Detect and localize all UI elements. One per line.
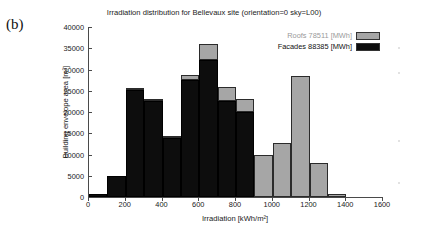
histogram-bar	[236, 99, 254, 197]
x-axis-tick-label: 1000	[264, 200, 280, 209]
bar-segment-roofs	[310, 163, 328, 197]
y-axis-tick-mark	[88, 91, 92, 92]
bar-segment-roofs	[254, 155, 272, 197]
x-axis-tick-label: 1200	[300, 200, 316, 209]
legend-label: Roofs 78511 [MWh]	[287, 31, 352, 40]
x-axis-tick-mark	[125, 197, 126, 201]
scan-speck	[398, 47, 400, 49]
bar-segment-roofs	[291, 76, 309, 197]
histogram-bar	[273, 143, 291, 197]
x-axis-tick-label: 400	[155, 200, 167, 209]
histogram-bar	[310, 163, 328, 197]
histogram-bar	[291, 76, 309, 197]
x-axis-tick-mark	[345, 197, 346, 201]
bar-segment-roofs	[328, 194, 346, 197]
x-axis-tick-mark	[382, 197, 383, 201]
y-axis-tick-label: 5000	[68, 171, 84, 180]
histogram-bar	[181, 75, 199, 197]
bar-segment-roofs	[218, 87, 236, 102]
histogram-bar	[218, 87, 236, 198]
histogram-bar	[107, 176, 125, 197]
x-axis-title: Irradiation [kWh/m²]	[88, 214, 382, 223]
bar-segment-roofs	[163, 136, 181, 138]
bar-segment-facades	[163, 138, 181, 198]
bar-segment-roofs	[273, 143, 291, 197]
legend-label: Facades 88385 [MWh]	[278, 42, 352, 51]
bar-segment-facades	[236, 112, 254, 197]
y-axis-tick-mark	[88, 133, 92, 134]
y-axis-tick-mark	[88, 112, 92, 113]
x-axis-tick-label: 1400	[337, 200, 353, 209]
histogram-bar	[328, 194, 346, 197]
bar-segment-facades	[181, 80, 199, 197]
chart-title: Irradiation distribution for Bellevaux s…	[88, 8, 340, 17]
y-axis-tick-mark	[88, 48, 92, 49]
x-axis-tick-mark	[235, 197, 236, 201]
bar-segment-facades	[144, 101, 162, 197]
x-axis-tick-label: 200	[119, 200, 131, 209]
figure-panel-b: (b) Irradiation distribution for Belleva…	[0, 0, 424, 241]
bar-segment-facades	[107, 176, 125, 197]
bar-segment-facades	[199, 60, 217, 197]
y-axis-tick-mark	[88, 27, 92, 28]
scan-speck	[398, 140, 400, 142]
legend-item: Roofs 78511 [MWh]	[250, 30, 380, 41]
histogram-bar	[254, 155, 272, 197]
x-axis-tick-label: 800	[229, 200, 241, 209]
scan-speck	[398, 182, 400, 184]
x-axis-tick-mark	[88, 197, 89, 201]
legend-swatch	[356, 32, 380, 40]
plot-area	[88, 27, 383, 198]
bar-segment-facades	[126, 90, 144, 197]
histogram-bar	[199, 44, 217, 197]
x-axis-tick-mark	[272, 197, 273, 201]
scan-speck	[398, 72, 400, 74]
y-axis-tick-label: 0	[80, 193, 84, 202]
x-axis-tick-label: 0	[86, 200, 90, 209]
y-axis-title: Building envelope area [m²]	[61, 27, 70, 197]
x-axis-tick-mark	[162, 197, 163, 201]
histogram-bar	[144, 99, 162, 197]
bar-segment-roofs	[181, 75, 199, 79]
y-axis-tick-mark	[88, 70, 92, 71]
x-axis-tick-mark	[198, 197, 199, 201]
y-axis-title-wrap: Building envelope area [m²]	[26, 27, 40, 197]
bar-segment-roofs	[126, 88, 144, 90]
legend-swatch	[356, 43, 380, 51]
y-axis-tick-mark	[88, 176, 92, 177]
histogram-bars	[89, 27, 383, 197]
x-axis-tick-label: 600	[192, 200, 204, 209]
histogram-bar	[163, 136, 181, 197]
legend-item: Facades 88385 [MWh]	[250, 41, 380, 52]
x-axis-tick-mark	[309, 197, 310, 201]
legend: Roofs 78511 [MWh]Facades 88385 [MWh]	[250, 30, 380, 52]
x-axis-tick-labels: 02004006008001000120014001600	[88, 200, 382, 212]
bar-segment-facades	[218, 101, 236, 197]
bar-segment-roofs	[199, 44, 217, 60]
bar-segment-roofs	[144, 99, 162, 101]
x-axis-tick-label: 1600	[374, 200, 390, 209]
y-axis-tick-mark	[88, 155, 92, 156]
bar-segment-roofs	[236, 99, 254, 112]
panel-label: (b)	[6, 16, 24, 33]
histogram-bar	[126, 89, 144, 197]
